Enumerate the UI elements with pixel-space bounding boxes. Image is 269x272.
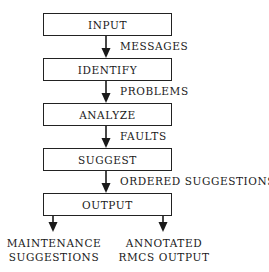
- edge-label-ordered-suggestions: ORDERED SUGGESTIONS: [120, 175, 269, 187]
- arrowhead-icon: [102, 48, 111, 58]
- box-input: INPUT: [43, 13, 172, 36]
- box-label: OUTPUT: [82, 199, 133, 211]
- box-identify: IDENTIFY: [43, 58, 172, 81]
- output-line: MAINTENANCE: [6, 236, 102, 250]
- arrowhead-icon: [159, 222, 168, 232]
- output-maintenance-suggestions: MAINTENANCE SUGGESTIONS: [6, 236, 102, 264]
- output-line: SUGGESTIONS: [6, 250, 102, 264]
- arrowhead-icon: [102, 138, 111, 148]
- box-label: SUGGEST: [78, 154, 137, 166]
- arrowhead-icon: [102, 183, 111, 193]
- edge-label-problems: PROBLEMS: [120, 85, 189, 97]
- box-suggest: SUGGEST: [43, 148, 172, 171]
- box-output: OUTPUT: [43, 193, 172, 216]
- box-label: IDENTIFY: [78, 64, 138, 76]
- box-label: INPUT: [88, 19, 127, 31]
- box-analyze: ANALYZE: [43, 103, 172, 126]
- arrowhead-icon: [49, 222, 58, 232]
- edge-label-messages: MESSAGES: [120, 40, 188, 52]
- output-annotated-rmcs: ANNOTATED RMCS OUTPUT: [118, 236, 210, 264]
- arrowhead-icon: [102, 93, 111, 103]
- output-line: ANNOTATED: [118, 236, 210, 250]
- box-label: ANALYZE: [79, 109, 136, 121]
- output-line: RMCS OUTPUT: [118, 250, 210, 264]
- edge-label-faults: FAULTS: [120, 130, 167, 142]
